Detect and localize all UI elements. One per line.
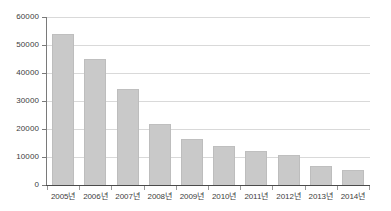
ytick-label-0: 0 (0, 181, 39, 189)
xtick-mark-2013년 (305, 186, 306, 190)
xtick-label-2012년: 2012년 (272, 192, 304, 201)
xtick-label-2009년: 2009년 (176, 192, 208, 201)
xtick-label-2007년: 2007년 (111, 192, 143, 201)
ytick-label-20000: 20000 (0, 125, 39, 133)
xtick-mark-2010년 (208, 186, 209, 190)
xtick-mark-2011년 (240, 186, 241, 190)
xtick-mark-2007년 (111, 186, 112, 190)
bar-2013년 (310, 166, 332, 185)
xtick-mark-2014년 (337, 186, 338, 190)
xtick-label-2005년: 2005년 (47, 192, 79, 201)
xtick-label-2010년: 2010년 (208, 192, 240, 201)
xtick-label-2014년: 2014년 (337, 192, 369, 201)
gridline-50000 (46, 45, 370, 46)
bar-2010년 (213, 146, 235, 185)
y-axis-line (46, 17, 47, 186)
gridline-60000 (46, 17, 370, 18)
xtick-mark-end (369, 186, 370, 190)
xtick-mark-2006년 (79, 186, 80, 190)
xtick-mark-2008년 (144, 186, 145, 190)
ytick-label-40000: 40000 (0, 69, 39, 77)
bar-2007년 (117, 89, 139, 185)
bar-2009년 (181, 139, 203, 185)
bar-2006년 (84, 59, 106, 185)
bar-2011년 (245, 151, 267, 185)
ytick-label-10000: 10000 (0, 153, 39, 161)
ytick-label-50000: 50000 (0, 41, 39, 49)
bar-2014년 (342, 170, 364, 185)
bar-2012년 (278, 155, 300, 185)
ytick-label-30000: 30000 (0, 97, 39, 105)
bar-2005년 (52, 34, 74, 185)
xtick-label-2006년: 2006년 (79, 192, 111, 201)
xtick-mark-2009년 (176, 186, 177, 190)
xtick-mark-2005년 (47, 186, 48, 190)
xtick-label-2008년: 2008년 (144, 192, 176, 201)
xtick-label-2013년: 2013년 (305, 192, 337, 201)
ytick-label-60000: 60000 (0, 13, 39, 21)
xtick-mark-2012년 (272, 186, 273, 190)
bar-2008년 (149, 124, 171, 185)
bar-chart: 60000 50000 40000 30000 20000 10000 0 20… (0, 0, 391, 211)
xtick-label-2011년: 2011년 (240, 192, 272, 201)
